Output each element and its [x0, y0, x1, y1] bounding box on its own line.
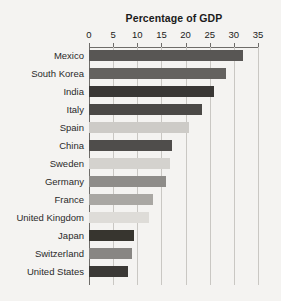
x-tick-label-10: 10 — [132, 29, 143, 40]
y-label-japan: Japan — [0, 227, 84, 245]
x-axis-tick-labels: 05101520253035 — [0, 29, 281, 41]
y-label-united-kingdom: United Kingdom — [0, 209, 84, 227]
x-tick-label-15: 15 — [156, 29, 167, 40]
bar-germany — [89, 176, 166, 187]
bar-united-states — [89, 266, 128, 277]
y-label-france: France — [0, 191, 84, 209]
y-axis-category-labels: MexicoSouth KoreaIndiaItalySpainChinaSwe… — [0, 47, 84, 285]
x-tick-label-20: 20 — [180, 29, 191, 40]
y-label-india: India — [0, 83, 84, 101]
bar-united-kingdom — [89, 212, 149, 223]
bar-spain — [89, 122, 189, 133]
y-label-spain: Spain — [0, 119, 84, 137]
y-label-switzerland: Switzerland — [0, 245, 84, 263]
y-label-mexico: Mexico — [0, 47, 84, 65]
bar-sweden — [89, 158, 170, 169]
bar-switzerland — [89, 248, 132, 259]
bar-chart: Percentage of GDP 05101520253035 MexicoS… — [0, 0, 281, 301]
y-label-south-korea: South Korea — [0, 65, 84, 83]
bar-italy — [89, 104, 202, 115]
x-tick-label-5: 5 — [110, 29, 115, 40]
bar-mexico — [89, 50, 243, 61]
bar-china — [89, 140, 172, 151]
y-label-germany: Germany — [0, 173, 84, 191]
bar-france — [89, 194, 153, 205]
x-tick-label-35: 35 — [253, 29, 264, 40]
x-tick-label-30: 30 — [229, 29, 240, 40]
y-label-italy: Italy — [0, 101, 84, 119]
bar-south-korea — [89, 68, 226, 79]
x-tick-label-0: 0 — [86, 29, 91, 40]
y-label-china: China — [0, 137, 84, 155]
y-label-sweden: Sweden — [0, 155, 84, 173]
bar-india — [89, 86, 214, 97]
chart-title: Percentage of GDP — [89, 12, 259, 24]
bars-layer — [89, 47, 281, 285]
x-tick-label-25: 25 — [204, 29, 215, 40]
bar-japan — [89, 230, 134, 241]
y-label-united-states: United States — [0, 263, 84, 281]
